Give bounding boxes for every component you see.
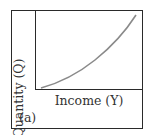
- x-axis-label: Income (Y): [35, 93, 143, 108]
- panel-label: (a): [19, 110, 36, 125]
